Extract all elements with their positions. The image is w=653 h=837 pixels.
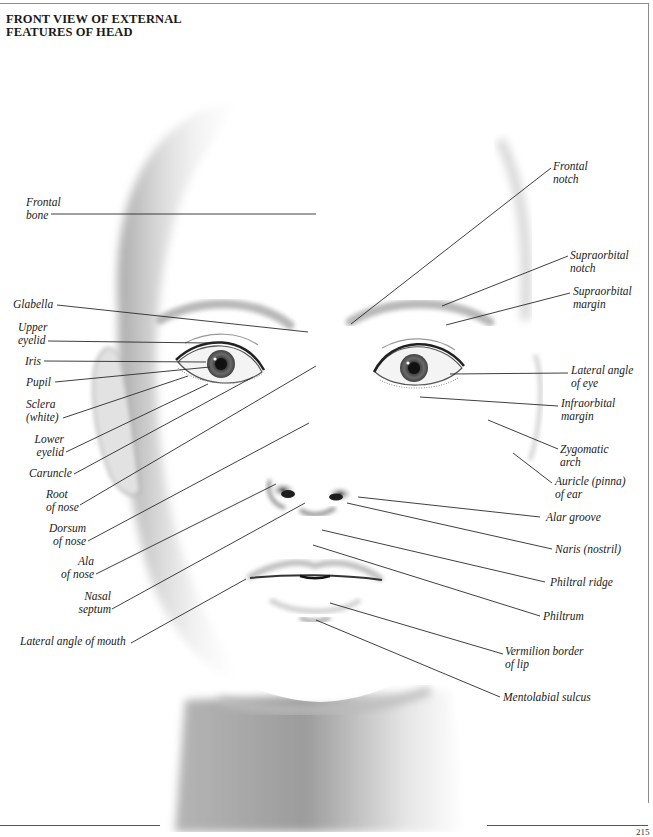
label-iris: Iris bbox=[25, 355, 41, 368]
label-philtral-ridge: Philtral ridge bbox=[550, 576, 613, 589]
label-vermilion-border: Vermilion border of lip bbox=[505, 645, 583, 670]
label-frontal-bone: Frontal bone bbox=[26, 196, 61, 221]
label-caruncle: Caruncle bbox=[29, 467, 72, 480]
label-supraorbital-margin: Supraorbital margin bbox=[573, 285, 632, 310]
head-shape bbox=[117, 92, 526, 710]
label-philtrum: Philtrum bbox=[543, 610, 584, 623]
label-naris: Naris (nostril) bbox=[555, 543, 621, 556]
label-ala-of-nose: Ala of nose bbox=[50, 555, 94, 580]
label-frontal-notch: Frontal notch bbox=[553, 160, 588, 185]
label-root-of-nose: Root of nose bbox=[46, 488, 79, 513]
label-auricle: Auricle (pinna) of ear bbox=[555, 475, 626, 500]
label-sclera: Sclera (white) bbox=[26, 398, 59, 423]
label-infraorbital-margin: Infraorbital margin bbox=[561, 397, 615, 422]
page-number: 215 bbox=[636, 827, 650, 837]
right-ear bbox=[530, 355, 540, 460]
label-pupil: Pupil bbox=[26, 376, 51, 389]
label-dorsum-of-nose: Dorsum of nose bbox=[40, 522, 86, 547]
label-lateral-angle-of-mouth: Lateral angle of mouth bbox=[20, 635, 126, 648]
label-supraorbital-notch: Supraorbital notch bbox=[570, 249, 629, 274]
label-mentolabial-sulcus: Mentolabial sulcus bbox=[503, 691, 591, 704]
label-lower-eyelid: Lower eyelid bbox=[20, 433, 64, 458]
label-zygomatic-arch: Zygomatic arch bbox=[560, 443, 609, 468]
label-alar-groove: Alar groove bbox=[546, 511, 601, 524]
label-glabella: Glabella bbox=[13, 298, 53, 311]
label-lateral-angle-of-eye: Lateral angle of eye bbox=[571, 364, 633, 389]
label-nasal-septum: Nasal septum bbox=[66, 590, 111, 615]
label-upper-eyelid: Upper eyelid bbox=[18, 321, 47, 346]
